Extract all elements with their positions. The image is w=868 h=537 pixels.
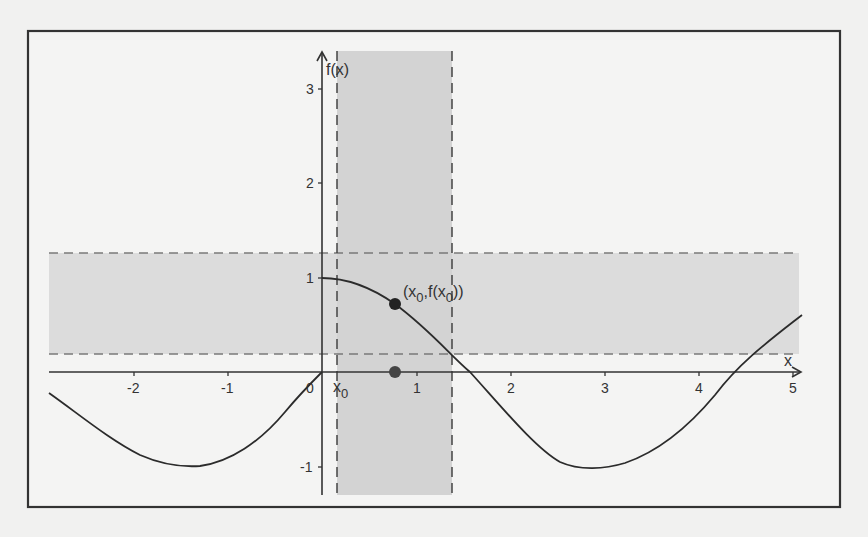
- chart-canvas: -2 -1 0 1 2 3 4 5 3 2 1 -1 f(x) x x0 (x0…: [0, 0, 868, 537]
- vertical-band: [337, 51, 452, 495]
- x-tick-label: 4: [695, 380, 703, 396]
- y-tick-label: -1: [300, 459, 313, 475]
- y-tick-label: 3: [306, 81, 314, 97]
- x-tick-label: 5: [789, 380, 797, 396]
- figure: -2 -1 0 1 2 3 4 5 3 2 1 -1 f(x) x x0 (x0…: [0, 0, 868, 537]
- point-on-x-axis: [389, 366, 401, 378]
- x-tick-label: -1: [221, 380, 234, 396]
- x-tick-label: -2: [127, 380, 140, 396]
- point-on-curve: [389, 298, 401, 310]
- x-axis-label: x: [784, 352, 792, 369]
- x-tick-label: 1: [413, 380, 421, 396]
- x-tick-label: 3: [601, 380, 609, 396]
- y-axis-label: f(x): [326, 61, 349, 78]
- y-tick-label: 2: [306, 175, 314, 191]
- x-tick-label: 2: [507, 380, 515, 396]
- y-tick-label: 1: [306, 270, 314, 286]
